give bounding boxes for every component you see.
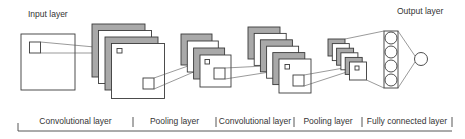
section-label-convolutional-2: Convolutional layer bbox=[219, 116, 291, 126]
output-neuron bbox=[415, 53, 428, 66]
section-label-pooling-2: Pooling layer bbox=[303, 116, 352, 126]
conv1-kernel-point bbox=[117, 49, 122, 54]
pool1-conv-window bbox=[214, 68, 225, 79]
conv1-stack bbox=[92, 24, 165, 99]
conv2-kernel-point bbox=[285, 65, 290, 70]
fc-neuron bbox=[385, 74, 397, 86]
conv2-stack bbox=[248, 27, 311, 93]
connection-fc-output bbox=[398, 31, 415, 88]
fc-neuron bbox=[385, 60, 397, 72]
input-layer-label: Input layer bbox=[28, 9, 68, 19]
pool1-kernel-point bbox=[205, 60, 210, 65]
section-label-fully-connected: Fully connected layer bbox=[367, 116, 447, 126]
pool2-stack bbox=[328, 39, 367, 80]
pool1-stack bbox=[181, 34, 231, 87]
cnn-diagram: Input layer Output layer bbox=[0, 0, 465, 139]
output-layer-label: Output layer bbox=[397, 6, 443, 16]
section-label-convolutional-1: Convolutional layer bbox=[39, 116, 111, 126]
section-label-pooling-1: Pooling layer bbox=[150, 116, 199, 126]
pool2-kernel-point bbox=[355, 66, 359, 70]
fc-neuron bbox=[385, 46, 397, 58]
input-receptive-field bbox=[30, 42, 41, 53]
fc-neuron bbox=[385, 32, 397, 44]
conv1-pool-window bbox=[143, 78, 154, 89]
conv2-pool-window bbox=[293, 75, 304, 86]
fully-connected-layer bbox=[384, 31, 398, 88]
